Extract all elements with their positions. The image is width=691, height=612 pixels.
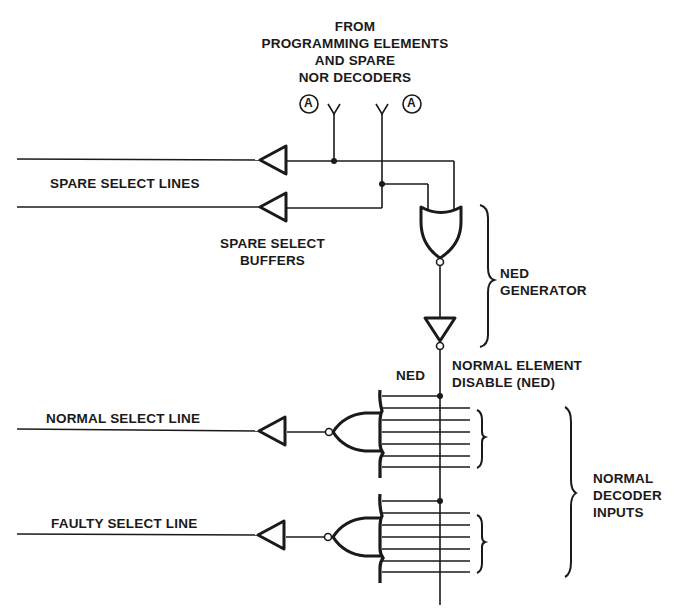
decoder-inputs-line: DECODER xyxy=(593,487,662,504)
normal-nor-bubble xyxy=(326,429,333,436)
source-label-line: NOR DECODERS xyxy=(240,69,470,86)
normal-decoder-inputs-brace xyxy=(565,407,576,577)
spare-input-a-2 xyxy=(376,104,388,208)
spare-select-buffer-1 xyxy=(260,146,286,174)
ned-generator-brace xyxy=(480,205,494,347)
faulty-nor-bubble xyxy=(325,534,332,541)
faulty-decoder-group xyxy=(333,494,470,583)
spare-select-buffers-line: BUFFERS xyxy=(210,252,335,269)
faulty-inputs-brace-small xyxy=(477,515,485,573)
source-label-line: FROM xyxy=(240,18,470,35)
normal-inputs-brace-small xyxy=(477,410,485,468)
normal-select-buffer xyxy=(259,417,285,445)
connector-marker-label: A xyxy=(304,95,313,112)
source-label-line: PROGRAMMING ELEMENTS xyxy=(240,35,470,52)
ned-inverter xyxy=(425,318,455,341)
normal-decoder-group xyxy=(333,390,470,478)
faulty-select-buffer xyxy=(258,521,284,549)
faulty-select-line-label: FAULTY SELECT LINE xyxy=(51,515,197,532)
ned-nor-gate xyxy=(421,207,461,258)
spare-select-lines-label: SPARE SELECT LINES xyxy=(50,175,200,192)
ned-label-line: DISABLE (NED) xyxy=(452,374,582,391)
junction-dot xyxy=(437,498,443,504)
ned-generator-line: GENERATOR xyxy=(500,282,587,299)
junction-dot xyxy=(331,158,337,164)
ned-generator-line: NED xyxy=(500,265,587,282)
source-label-line: AND SPARE xyxy=(240,52,470,69)
faulty-select-line xyxy=(17,534,258,535)
decoder-inputs-line: NORMAL xyxy=(593,470,662,487)
spare-select-buffers-line: SPARE SELECT xyxy=(210,235,335,252)
spare-input-a-1 xyxy=(328,104,340,160)
junction-dot xyxy=(379,181,385,187)
normal-select-line-label: NORMAL SELECT LINE xyxy=(46,410,200,427)
inverter-output-bubble xyxy=(437,343,444,350)
normal-element-disable-label: NORMAL ELEMENT DISABLE (NED) xyxy=(452,357,582,391)
nor-output-bubble xyxy=(437,259,444,266)
connector-marker-label: A xyxy=(407,95,416,112)
source-label: FROM PROGRAMMING ELEMENTS AND SPARE NOR … xyxy=(240,18,470,86)
ned-generator-label: NED GENERATOR xyxy=(500,265,587,299)
junction-dot xyxy=(437,393,443,399)
normal-decoder-inputs-label: NORMAL DECODER INPUTS xyxy=(593,470,662,521)
ned-label-line: NORMAL ELEMENT xyxy=(452,357,582,374)
ned-short-label: NED xyxy=(396,367,425,384)
normal-select-line xyxy=(17,429,259,431)
spare-select-buffer-2 xyxy=(260,193,286,221)
spare-select-buffers-label: SPARE SELECT BUFFERS xyxy=(210,235,335,269)
decoder-inputs-line: INPUTS xyxy=(593,504,662,521)
